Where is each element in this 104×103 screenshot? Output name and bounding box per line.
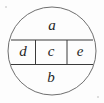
paper-speck [97, 96, 99, 98]
circle-band-diagram: a d c e b [0, 0, 104, 103]
region-label-a: a [48, 17, 56, 33]
region-label-b: b [47, 69, 55, 85]
diagram-canvas: a d c e b [0, 0, 104, 103]
region-label-c: c [48, 43, 55, 59]
region-label-e: e [77, 43, 84, 59]
region-label-d: d [19, 43, 27, 59]
paper-speck [5, 6, 7, 8]
